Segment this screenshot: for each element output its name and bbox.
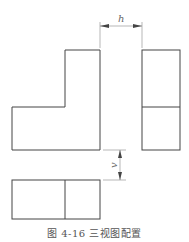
front-view [12, 50, 100, 150]
dimension-h: h [100, 13, 142, 48]
dimension-h-label: h [118, 13, 124, 24]
top-view [12, 180, 100, 219]
side-view [142, 50, 180, 150]
dimension-v-label: v [108, 162, 119, 168]
arrow-left-icon [100, 24, 109, 28]
arrow-down-icon [118, 172, 122, 180]
arrow-right-icon [133, 24, 142, 28]
arrow-up-icon [118, 150, 122, 158]
dimension-v: v [103, 150, 126, 180]
three-view-diagram: h v [0, 0, 189, 242]
figure-caption: 图 4-16 三视图配置 [0, 225, 189, 240]
